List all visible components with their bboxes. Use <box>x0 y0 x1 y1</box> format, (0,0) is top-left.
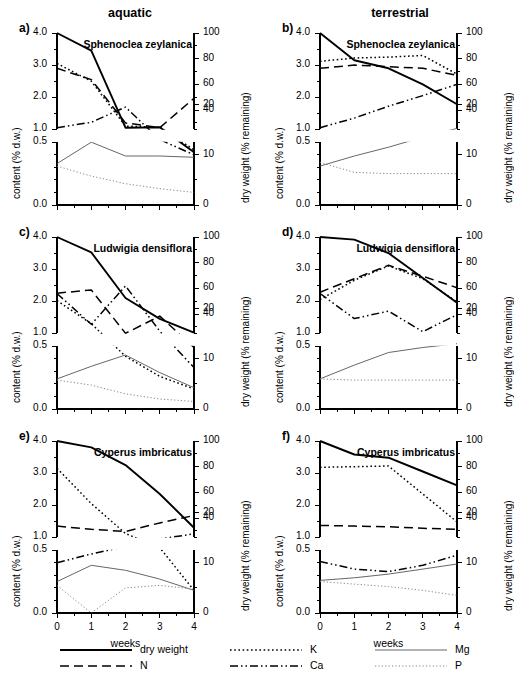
y-tick-right-f-20: 20 <box>466 506 496 517</box>
y-axis-label-right-a: dry weight (% remaining) <box>240 92 251 203</box>
legend-label-mg: Mg <box>455 643 470 655</box>
y-tick-left-a-0.5: 0.5 <box>15 135 47 146</box>
y-tick-left-b-1.0: 1.0 <box>278 122 310 133</box>
y-tick-right-f-0: 0 <box>466 606 496 617</box>
y-tick-left-a-3.0: 3.0 <box>15 58 47 69</box>
y-tick-right-e-0: 0 <box>203 606 233 617</box>
y-tick-left-d-1.0: 1.0 <box>278 326 310 337</box>
y-tick-right-c-100: 100 <box>203 230 233 241</box>
x-tick-f-2: 2 <box>374 621 404 632</box>
legend-label-n: N <box>140 659 148 671</box>
series-n <box>57 68 194 127</box>
column-title-aquatic: aquatic <box>60 6 200 20</box>
y-tick-right-e-100: 100 <box>203 434 233 445</box>
y-axis-label-right-f: dry weight (% remaining) <box>503 500 514 611</box>
plot-area-e <box>57 441 196 615</box>
y-tick-right-e-10: 10 <box>203 556 233 567</box>
series-p <box>57 585 194 613</box>
y-tick-left-c-3.0: 3.0 <box>15 262 47 273</box>
y-tick-left-e-1.0: 1.0 <box>15 530 47 541</box>
plot-area-f <box>320 441 459 615</box>
y-tick-right-f-100: 100 <box>466 434 496 445</box>
series-mg <box>320 344 457 379</box>
y-tick-left-c-2.0: 2.0 <box>15 294 47 305</box>
series-n <box>57 516 194 532</box>
series-n <box>320 65 457 75</box>
legend-label-p: P <box>455 659 462 671</box>
y-tick-right-a-100: 100 <box>203 26 233 37</box>
series-n <box>320 525 457 529</box>
x-tick-e-1: 1 <box>76 621 106 632</box>
plot-area-a <box>57 33 196 207</box>
y-tick-left-f-4.0: 4.0 <box>278 434 310 445</box>
column-title-terrestrial: terrestrial <box>330 6 470 20</box>
y-tick-left-b-4.0: 4.0 <box>278 26 310 37</box>
y-tick-left-a-1.0: 1.0 <box>15 122 47 133</box>
y-tick-right-c-0: 0 <box>203 402 233 413</box>
series-ca <box>320 294 457 332</box>
series-dry-weight <box>320 33 457 104</box>
x-tick-e-3: 3 <box>145 621 175 632</box>
y-tick-right-a-20: 20 <box>203 98 233 109</box>
y-tick-left-d-0.5: 0.5 <box>278 339 310 350</box>
y-tick-right-e-20: 20 <box>203 506 233 517</box>
y-tick-right-c-10: 10 <box>203 352 233 363</box>
series-ca <box>320 84 457 127</box>
legend-svg <box>0 640 507 677</box>
x-tick-f-4: 4 <box>442 621 472 632</box>
y-tick-right-d-10: 10 <box>466 352 496 363</box>
y-tick-left-b-3.0: 3.0 <box>278 58 310 69</box>
y-tick-left-c-0.5: 0.5 <box>15 339 47 350</box>
y-tick-left-f-0.0: 0.0 <box>278 606 310 617</box>
y-tick-right-b-100: 100 <box>466 26 496 37</box>
x-tick-f-1: 1 <box>339 621 369 632</box>
y-tick-left-b-0.5: 0.5 <box>278 135 310 146</box>
y-tick-left-a-0.0: 0.0 <box>15 198 47 209</box>
y-tick-right-c-20: 20 <box>203 302 233 313</box>
series-p <box>320 582 457 596</box>
y-tick-right-d-20: 20 <box>466 302 496 313</box>
y-tick-left-b-2.0: 2.0 <box>278 90 310 101</box>
series-p <box>57 380 194 401</box>
y-tick-left-d-3.0: 3.0 <box>278 262 310 273</box>
y-axis-label-right-b: dry weight (% remaining) <box>503 92 514 203</box>
y-tick-right-c-80: 80 <box>203 256 233 267</box>
y-tick-right-b-10: 10 <box>466 148 496 159</box>
x-tick-e-0: 0 <box>42 621 72 632</box>
y-tick-left-a-4.0: 4.0 <box>15 26 47 37</box>
y-tick-right-c-60: 60 <box>203 281 233 292</box>
y-tick-right-e-60: 60 <box>203 485 233 496</box>
y-tick-right-d-80: 80 <box>466 256 496 267</box>
y-tick-right-a-0: 0 <box>203 198 233 209</box>
y-tick-left-f-3.0: 3.0 <box>278 466 310 477</box>
series-k <box>320 466 457 522</box>
y-tick-right-f-60: 60 <box>466 485 496 496</box>
y-tick-right-d-60: 60 <box>466 281 496 292</box>
y-tick-right-d-0: 0 <box>466 402 496 413</box>
legend: dry weightNKCaMgP <box>0 640 507 677</box>
y-tick-right-b-60: 60 <box>466 77 496 88</box>
y-tick-left-d-4.0: 4.0 <box>278 230 310 241</box>
plot-area-c <box>57 237 196 411</box>
x-tick-e-2: 2 <box>111 621 141 632</box>
y-tick-left-e-4.0: 4.0 <box>15 434 47 445</box>
y-tick-left-d-2.0: 2.0 <box>278 294 310 305</box>
y-tick-left-f-1.0: 1.0 <box>278 530 310 541</box>
series-p <box>57 166 194 192</box>
x-tick-f-3: 3 <box>408 621 438 632</box>
y-tick-left-e-2.0: 2.0 <box>15 498 47 509</box>
series-dry-weight <box>57 441 194 528</box>
y-tick-right-b-0: 0 <box>466 198 496 209</box>
series-p <box>320 379 457 380</box>
series-mg <box>57 565 194 590</box>
y-tick-right-e-80: 80 <box>203 460 233 471</box>
y-tick-left-f-0.5: 0.5 <box>278 543 310 554</box>
y-axis-label-right-c: dry weight (% remaining) <box>240 296 251 407</box>
y-tick-right-a-10: 10 <box>203 148 233 159</box>
legend-label-dry-weight: dry weight <box>140 643 188 655</box>
legend-label-ca: Ca <box>310 659 323 671</box>
y-tick-left-d-0.0: 0.0 <box>278 402 310 413</box>
series-dry-weight <box>320 441 457 485</box>
y-tick-right-f-80: 80 <box>466 460 496 471</box>
